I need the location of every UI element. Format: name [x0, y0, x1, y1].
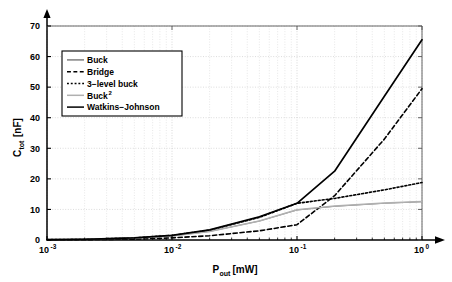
legend-label: Buck [87, 91, 108, 101]
chart-figure: 01020304050607010-310-210-1100Pout[mW]Ct… [0, 0, 452, 282]
y-axis-title-main: C [12, 150, 23, 157]
x-tick-mantissa: 10 [164, 245, 174, 255]
y-tick-label: 40 [30, 113, 40, 123]
x-tick-exponent: -1 [301, 243, 307, 250]
x-tick-exponent: 0 [426, 243, 430, 250]
axis-titles: Pout[mW]Ctot[nF] [12, 118, 257, 277]
y-axis-title: Ctot[nF] [12, 118, 25, 157]
x-axis-title-main: P [213, 264, 220, 275]
legend: BuckBridge3−level buckBuck2Watkins−Johns… [62, 51, 182, 116]
x-axis-title-sub: out [220, 270, 232, 277]
y-axis-arrowhead [43, 9, 50, 18]
y-tick-label: 50 [30, 82, 40, 92]
y-tick-label: 30 [30, 144, 40, 154]
y-tick-label: 20 [30, 174, 40, 184]
series-line-3-level-buck [47, 183, 422, 240]
y-tick-label: 0 [35, 235, 40, 245]
y-axis-title-unit: [nF] [12, 118, 23, 137]
legend-label: Bridge [87, 67, 114, 77]
legend-label: 3−level buck [87, 79, 138, 89]
y-tick-label: 60 [30, 52, 40, 62]
x-tick-mantissa: 10 [414, 245, 424, 255]
x-tick-exponent: -2 [176, 243, 182, 250]
legend-label: Watkins−Johnson [87, 102, 160, 112]
x-axis-title: Pout[mW] [213, 264, 258, 277]
x-axis-title-unit: [mW] [233, 264, 258, 275]
x-tick-exponent: -3 [51, 243, 57, 250]
legend-label: Buck [87, 55, 108, 65]
chart-canvas: 01020304050607010-310-210-1100Pout[mW]Ct… [0, 0, 452, 282]
axes [43, 9, 445, 244]
x-axis-arrowhead [435, 236, 445, 244]
x-tick-label: 10-3 [39, 243, 57, 255]
x-tick-label: 10-1 [289, 243, 307, 255]
x-tick-label: 10-2 [164, 243, 182, 255]
x-tick-mantissa: 10 [289, 245, 299, 255]
y-tick-label: 70 [30, 21, 40, 31]
x-tick-label: 100 [414, 243, 430, 255]
y-axis-title-sub: tot [18, 140, 25, 150]
x-tick-mantissa: 10 [39, 245, 49, 255]
y-tick-label: 10 [30, 205, 40, 215]
